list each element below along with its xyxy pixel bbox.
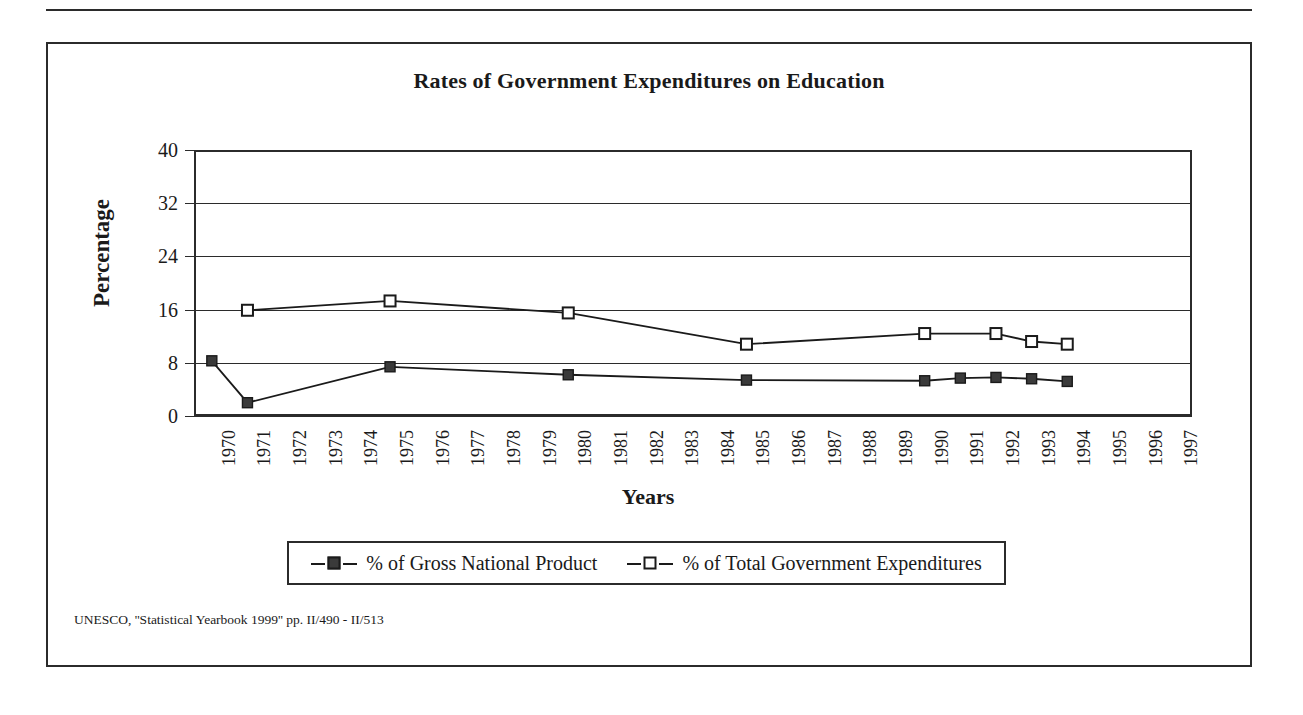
chart-legend: % of Gross National Product % of Total G…: [287, 541, 1006, 585]
x-tick-label-1991: 1991: [967, 430, 988, 466]
open-square-marker: [990, 328, 1001, 339]
x-tick-label-1997: 1997: [1181, 430, 1202, 466]
filled-square-marker: [741, 375, 751, 385]
series-line: [212, 361, 1067, 403]
y-tick-mark: [185, 416, 194, 417]
y-tick-mark: [185, 150, 194, 151]
x-tick-label-1979: 1979: [540, 430, 561, 466]
gridline: [194, 416, 1192, 417]
series-layer: [194, 150, 1192, 416]
series-government-expenditures: [242, 295, 1073, 349]
x-tick-label-1994: 1994: [1074, 430, 1095, 466]
filled-square-marker: [920, 376, 930, 386]
x-tick-label-1983: 1983: [682, 430, 703, 466]
x-tick-label-1993: 1993: [1039, 430, 1060, 466]
filled-square-marker: [1027, 374, 1037, 384]
filled-square-marker: [955, 373, 965, 383]
filled-square-marker: [991, 372, 1001, 382]
legend-label-government-expenditures: % of Total Government Expenditures: [682, 552, 981, 575]
x-tick-label-1996: 1996: [1146, 430, 1167, 466]
y-tick-label: 24: [130, 245, 178, 268]
x-tick-label-1980: 1980: [575, 430, 596, 466]
filled-square-marker: [385, 362, 395, 372]
x-tick-label-1987: 1987: [825, 430, 846, 466]
legend-entry-gnp: % of Gross National Product: [311, 552, 597, 575]
page-top-rule: [46, 9, 1252, 11]
y-tick-label: 40: [130, 139, 178, 162]
y-tick-label: 32: [130, 192, 178, 215]
open-square-marker: [741, 339, 752, 350]
x-tick-label-1988: 1988: [860, 430, 881, 466]
y-tick-mark: [185, 310, 194, 311]
x-tick-label-1974: 1974: [361, 430, 382, 466]
x-tick-label-1985: 1985: [753, 430, 774, 466]
open-square-marker-icon: [627, 555, 673, 571]
x-tick-label-1989: 1989: [896, 430, 917, 466]
filled-square-marker: [1062, 376, 1072, 386]
x-tick-label-1978: 1978: [504, 430, 525, 466]
x-tick-label-1986: 1986: [789, 430, 810, 466]
x-tick-label-1972: 1972: [290, 430, 311, 466]
open-square-marker: [1062, 339, 1073, 350]
x-tick-label-1995: 1995: [1110, 430, 1131, 466]
x-tick-label-1981: 1981: [611, 430, 632, 466]
x-tick-label-1970: 1970: [219, 430, 240, 466]
plot-area: 0816243240 19701971197219731974197519761…: [194, 150, 1192, 416]
y-tick-mark: [185, 256, 194, 257]
chart-title: Rates of Government Expenditures on Educ…: [48, 68, 1250, 94]
open-square-marker: [563, 307, 574, 318]
filled-square-marker: [563, 370, 573, 380]
x-tick-label-1982: 1982: [647, 430, 668, 466]
series-line: [247, 301, 1067, 344]
open-square-marker: [919, 328, 930, 339]
filled-square-marker: [242, 398, 252, 408]
x-tick-label-1975: 1975: [397, 430, 418, 466]
y-tick-label: 8: [130, 351, 178, 374]
open-square-marker: [1026, 336, 1037, 347]
y-tick-mark: [185, 363, 194, 364]
x-tick-label-1971: 1971: [254, 430, 275, 466]
series-gnp: [207, 356, 1072, 408]
x-tick-label-1973: 1973: [326, 430, 347, 466]
x-axis-title: Years: [148, 484, 1148, 510]
filled-square-marker: [207, 356, 217, 366]
x-tick-label-1992: 1992: [1003, 430, 1024, 466]
source-note: UNESCO, ''Statistical Yearbook 1999'' pp…: [74, 612, 384, 628]
y-axis-title: Percentage: [89, 173, 115, 333]
y-tick-mark: [185, 203, 194, 204]
y-tick-label: 0: [130, 405, 178, 428]
open-square-marker: [242, 305, 253, 316]
x-tick-label-1977: 1977: [468, 430, 489, 466]
x-tick-label-1990: 1990: [932, 430, 953, 466]
filled-square-marker-icon: [311, 555, 357, 571]
y-tick-label: 16: [130, 298, 178, 321]
legend-entry-government-expenditures: % of Total Government Expenditures: [627, 552, 981, 575]
figure-container: Rates of Government Expenditures on Educ…: [46, 42, 1252, 667]
x-tick-label-1984: 1984: [718, 430, 739, 466]
open-square-marker: [385, 295, 396, 306]
x-tick-label-1976: 1976: [433, 430, 454, 466]
legend-label-gnp: % of Gross National Product: [366, 552, 597, 575]
